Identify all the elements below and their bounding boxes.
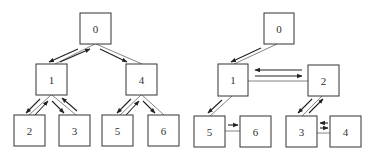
node-label: 2 (321, 75, 327, 87)
tree-diagram: 0 1 4 2 3 5 6 (14, 13, 179, 146)
tree-node-4: 4 (126, 64, 157, 95)
edge-0-4 (96, 44, 142, 64)
node-label: 3 (299, 126, 305, 138)
diagram-canvas: 0 1 4 2 3 5 6 (0, 0, 372, 160)
graph-diagram: 0 1 2 5 6 3 4 (194, 13, 361, 147)
tree-node-6: 6 (148, 115, 179, 146)
graph-node-2: 2 (308, 65, 339, 96)
node-label: 1 (49, 74, 55, 86)
graph-node-0: 0 (264, 13, 294, 44)
edge-1-2 (29, 95, 51, 115)
node-label: 5 (207, 126, 213, 138)
arrow-3-to-2 (309, 99, 323, 113)
node-label: 4 (139, 74, 145, 86)
graph-node-4: 4 (330, 116, 361, 147)
graph-node-6: 6 (240, 116, 271, 147)
arrow-1-to-3 (52, 101, 64, 113)
node-label: 4 (343, 126, 349, 138)
node-label: 1 (230, 74, 236, 86)
tree-node-2: 2 (14, 115, 45, 146)
graph-node-5: 5 (194, 116, 225, 147)
edge-4-5 (120, 95, 141, 115)
node-label: 3 (72, 125, 78, 137)
node-label: 6 (161, 125, 167, 137)
edge-0-1 (234, 44, 277, 64)
node-label: 0 (93, 23, 99, 35)
arrow-4-to-6 (143, 101, 155, 113)
node-label: 6 (253, 126, 259, 138)
tree-node-1: 1 (36, 64, 67, 95)
node-label: 2 (27, 125, 33, 137)
graph-node-1: 1 (218, 64, 248, 96)
arrow-0-to-1 (231, 48, 261, 62)
graph-node-3: 3 (286, 116, 317, 147)
node-label: 0 (276, 23, 282, 35)
edge-1-5 (210, 96, 232, 116)
tree-node-0: 0 (80, 13, 111, 44)
node-label: 5 (115, 125, 121, 137)
arrow-2-to-3 (298, 99, 312, 113)
edge-4-6 (142, 95, 164, 115)
tree-node-5: 5 (102, 115, 133, 146)
tree-node-3: 3 (59, 115, 90, 146)
